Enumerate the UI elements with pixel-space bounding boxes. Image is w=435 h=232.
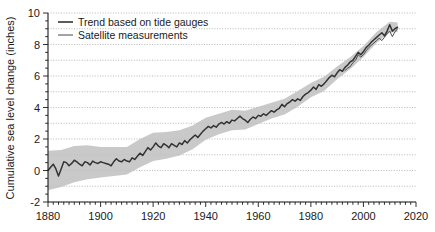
legend-label: Satellite measurements [78, 29, 188, 41]
x-tick-label: 1960 [246, 210, 270, 222]
x-tick-label: 1900 [88, 210, 112, 222]
chart-canvas: 18801900192019401960198020002020 -202468… [0, 0, 435, 232]
x-tick-label: 2020 [404, 210, 428, 222]
y-tick-label: 2 [34, 133, 40, 145]
chart-legend: Trend based on tide gaugesSatellite meas… [58, 16, 208, 41]
sea-level-chart: 18801900192019401960198020002020 -202468… [0, 0, 435, 232]
y-tick-label: 8 [34, 39, 40, 51]
y-tick-label: -2 [30, 196, 40, 208]
y-tick-label: 0 [34, 165, 40, 177]
y-axis-title: Cumulative sea level change (inches) [4, 17, 16, 200]
x-tick-label: 2000 [351, 210, 375, 222]
y-tick-label: 6 [34, 70, 40, 82]
y-tick-label: 10 [28, 7, 40, 19]
x-tick-label: 1980 [299, 210, 323, 222]
x-tick-label: 1920 [141, 210, 165, 222]
legend-label: Trend based on tide gauges [78, 16, 208, 28]
x-tick-label: 1940 [193, 210, 217, 222]
y-tick-label: 4 [34, 102, 40, 114]
x-tick-label: 1880 [36, 210, 60, 222]
